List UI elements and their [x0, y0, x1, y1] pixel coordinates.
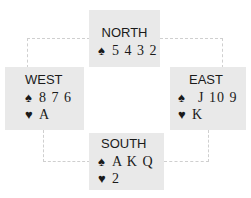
connector-north-west: [27, 38, 90, 68]
west-hearts-row: ♥A: [5, 106, 84, 123]
east-spades-row: ♠J 10 9: [170, 89, 246, 106]
north-spades: 5 4 3 2: [112, 43, 158, 58]
west-spades: 8 7 6: [39, 90, 72, 105]
spade-icon: ♠: [178, 89, 198, 106]
south-spades: A K Q: [112, 154, 154, 169]
east-hearts: K: [192, 107, 203, 122]
heart-icon: ♥: [25, 106, 39, 123]
bridge-diagram: NORTH ♠5 4 3 2 WEST ♠8 7 6 ♥A EAST ♠J 10…: [0, 0, 251, 198]
connector-west-south: [43, 130, 90, 162]
spade-icon: ♠: [25, 89, 39, 106]
connector-north-east: [160, 38, 223, 68]
west-spades-row: ♠8 7 6: [5, 89, 84, 106]
heart-icon: ♥: [178, 106, 192, 123]
west-hearts: A: [39, 107, 50, 122]
north-spades-row: ♠5 4 3 2: [89, 42, 160, 59]
east-spades: J 10 9: [198, 90, 237, 105]
west-label: WEST: [5, 72, 84, 87]
connector-east-south: [164, 130, 209, 162]
east-label: EAST: [170, 72, 246, 87]
heart-icon: ♥: [98, 170, 112, 187]
south-spades-row: ♠A K Q: [89, 153, 164, 170]
north-hand: NORTH ♠5 4 3 2: [89, 10, 160, 67]
south-hearts-row: ♥2: [89, 170, 164, 187]
spade-icon: ♠: [98, 42, 112, 59]
south-hearts: 2: [112, 171, 120, 186]
north-label: NORTH: [89, 25, 160, 40]
east-hearts-row: ♥K: [170, 106, 246, 123]
spade-icon: ♠: [98, 153, 112, 170]
south-label: SOUTH: [89, 136, 164, 151]
east-hand: EAST ♠J 10 9 ♥K: [170, 67, 246, 130]
south-hand: SOUTH ♠A K Q ♥2: [89, 133, 164, 190]
west-hand: WEST ♠8 7 6 ♥A: [5, 67, 84, 130]
